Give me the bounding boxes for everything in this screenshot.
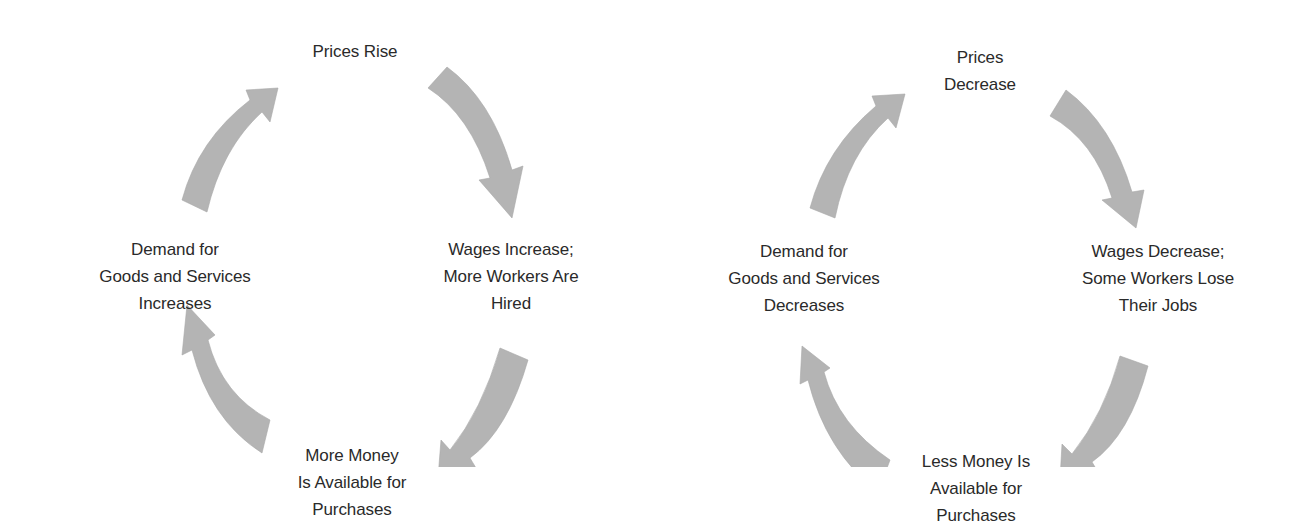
arrow-right-to-bottom-icon xyxy=(438,348,528,467)
arrow-right-to-bottom-icon xyxy=(1060,356,1148,467)
arrow-left-to-top-icon xyxy=(810,94,905,218)
node-wages-decrease: Wages Decrease; Some Workers Lose Their … xyxy=(1082,238,1234,319)
node-prices-decrease: Prices Decrease xyxy=(944,44,1016,98)
node-wages-increase: Wages Increase; More Workers Are Hired xyxy=(443,236,578,317)
cycle-arrows xyxy=(0,0,650,467)
arrow-bottom-to-left-icon xyxy=(182,305,270,453)
node-demand-decreases: Demand for Goods and Services Decreases xyxy=(728,238,879,319)
node-prices-rise: Prices Rise xyxy=(313,38,398,65)
deflation-cycle-diagram: Prices Decrease Wages Decrease; Some Wor… xyxy=(650,0,1311,467)
node-more-money: More Money Is Available for Purchases xyxy=(298,442,407,523)
node-demand-increases: Demand for Goods and Services Increases xyxy=(99,236,250,317)
arrow-bottom-to-left-icon xyxy=(800,346,890,467)
inflation-cycle-diagram: Prices Rise Wages Increase; More Workers… xyxy=(0,0,650,467)
arrow-left-to-top-icon xyxy=(182,88,278,212)
arrow-top-to-right-icon xyxy=(1050,90,1144,228)
arrow-top-to-right-icon xyxy=(428,67,523,218)
node-less-money: Less Money Is Available for Purchases xyxy=(922,448,1030,525)
